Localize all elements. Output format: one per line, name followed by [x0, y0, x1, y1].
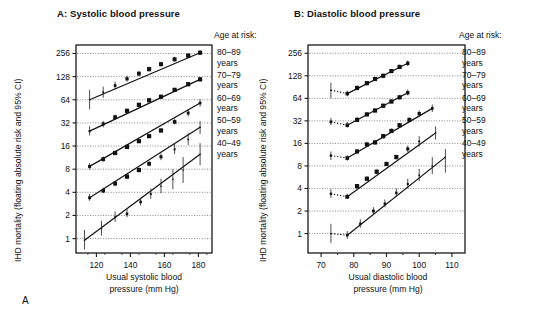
svg-text:32: 32	[61, 118, 71, 128]
svg-text:100: 100	[412, 260, 426, 270]
panel-b-x-axis-title: Usual diastolic blood pressure (mm Hg)	[302, 272, 474, 295]
svg-text:128: 128	[288, 71, 302, 81]
svg-text:32: 32	[293, 116, 303, 126]
svg-text:160: 160	[157, 260, 171, 270]
svg-text:70: 70	[316, 260, 326, 270]
svg-text:16: 16	[293, 138, 303, 148]
svg-text:256: 256	[56, 48, 70, 58]
svg-text:64: 64	[61, 95, 71, 105]
svg-text:8: 8	[297, 161, 302, 171]
svg-text:2: 2	[297, 206, 302, 216]
svg-text:128: 128	[56, 72, 70, 82]
panel-a-x-axis-title-line1: Usual systolic blood	[58, 272, 230, 284]
panel-b-x-axis-title-line1: Usual diastolic blood	[302, 272, 474, 284]
figure-container: A: Systolic blood pressure Age at risk: …	[0, 0, 533, 334]
panel-b-x-axis-title-line2: pressure (mm Hg)	[302, 284, 474, 296]
svg-text:90: 90	[382, 260, 392, 270]
svg-text:256: 256	[288, 48, 302, 58]
svg-text:180: 180	[191, 260, 205, 270]
panel-systolic: A: Systolic blood pressure Age at risk: …	[0, 0, 270, 334]
svg-text:1: 1	[297, 229, 302, 239]
svg-text:4: 4	[297, 183, 302, 193]
panel-a-x-axis-title-line2: pressure (mm Hg)	[58, 284, 230, 296]
panel-diastolic: B: Diastolic blood pressure Age at risk:…	[252, 0, 533, 334]
svg-text:2: 2	[65, 210, 70, 220]
panel-a-x-axis-title: Usual systolic blood pressure (mm Hg)	[58, 272, 230, 295]
svg-text:80: 80	[349, 260, 359, 270]
svg-text:1: 1	[65, 234, 70, 244]
svg-text:4: 4	[65, 187, 70, 197]
svg-text:64: 64	[293, 93, 303, 103]
svg-text:140: 140	[123, 260, 137, 270]
svg-text:120: 120	[89, 260, 103, 270]
svg-text:16: 16	[61, 141, 71, 151]
figure-letter: A	[22, 295, 29, 306]
svg-text:8: 8	[65, 164, 70, 174]
svg-text:110: 110	[445, 260, 459, 270]
